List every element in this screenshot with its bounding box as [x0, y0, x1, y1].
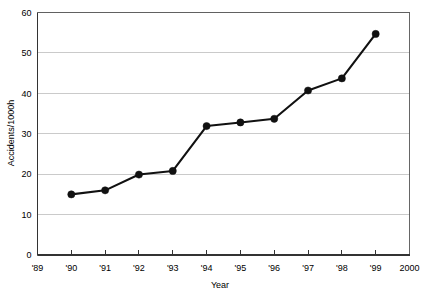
- y-tick-label-20: 20: [21, 169, 31, 179]
- x-tick-label-2000: 2000: [399, 263, 419, 273]
- x-tick-label-'99: '99: [370, 263, 382, 273]
- y-tick-label-60: 60: [21, 8, 31, 18]
- y-tick-label-10: 10: [21, 210, 31, 220]
- data-point-'96: [271, 115, 278, 122]
- y-tick-label-30: 30: [21, 129, 31, 139]
- data-point-'92: [135, 171, 142, 178]
- x-tick-label-'89: '89: [32, 263, 44, 273]
- data-point-'95: [237, 119, 244, 126]
- x-tick-label-'90: '90: [65, 263, 77, 273]
- data-point-'90: [68, 191, 75, 198]
- x-tick-label-'97: '97: [302, 263, 314, 273]
- data-point-'94: [203, 122, 210, 129]
- data-point-'97: [304, 87, 311, 94]
- y-tick-label-0: 0: [26, 250, 31, 260]
- data-point-'98: [338, 75, 345, 82]
- y-axis-title: Accidents/1000h: [6, 100, 16, 167]
- data-point-'99: [372, 30, 379, 37]
- x-tick-label-'92: '92: [133, 263, 145, 273]
- x-tick-label-'96: '96: [268, 263, 280, 273]
- data-point-'93: [169, 167, 176, 174]
- x-tick-label-'94: '94: [201, 263, 213, 273]
- line-chart: 0102030405060 '89'90'91'92'93'94'95'96'9…: [0, 0, 433, 300]
- y-tick-label-40: 40: [21, 89, 31, 99]
- y-tick-label-50: 50: [21, 48, 31, 58]
- chart-container: 0102030405060 '89'90'91'92'93'94'95'96'9…: [0, 0, 433, 300]
- x-tick-label-'98: '98: [336, 263, 348, 273]
- data-point-'91: [102, 187, 109, 194]
- x-tick-label-'95: '95: [235, 263, 247, 273]
- x-axis-title: Year: [211, 280, 229, 290]
- x-tick-label-'93: '93: [167, 263, 179, 273]
- x-tick-label-'91: '91: [99, 263, 111, 273]
